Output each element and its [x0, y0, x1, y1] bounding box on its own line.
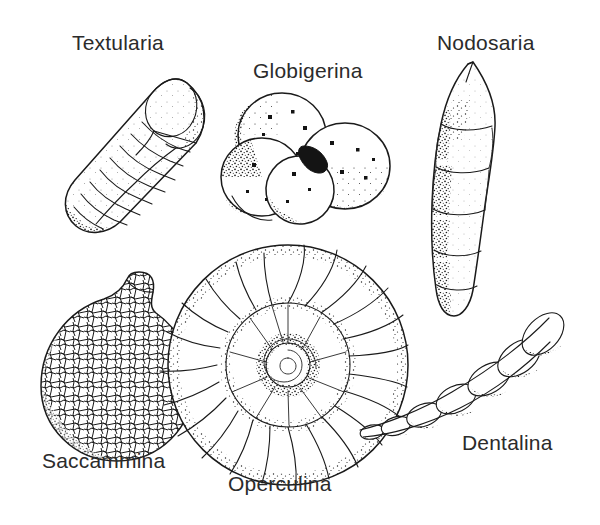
- label-nodosaria: Nodosaria: [437, 31, 535, 54]
- label-globigerina: Globigerina: [253, 59, 363, 82]
- label-textularia: Textularia: [72, 31, 164, 54]
- illustration-plate: Textularia: [0, 0, 600, 525]
- label-saccammina: Saccammina: [42, 449, 165, 472]
- plate-canvas: Textularia: [0, 0, 600, 525]
- label-operculina: Operculina: [228, 472, 332, 495]
- label-dentalina: Dentalina: [462, 431, 553, 454]
